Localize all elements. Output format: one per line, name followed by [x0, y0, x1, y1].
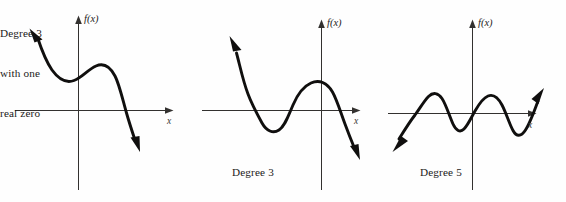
graph-panel-degree-3-one-zero: f(x) x Degree 3 with one real zero [0, 0, 190, 202]
polynomial-curve [30, 29, 141, 153]
caption-line-1: Degree 5 [420, 166, 465, 179]
caption-line-3: real zero [0, 107, 42, 120]
panel-caption: Degree 5 with five real zeros [420, 139, 465, 202]
y-axis [469, 20, 476, 191]
polynomial-curve [393, 88, 545, 152]
y-axis-label: f(x) [478, 17, 493, 29]
caption-line-1: Degree 3 [232, 166, 279, 179]
caption-line-1: Degree 3 [0, 27, 42, 40]
polynomial-graphs-figure: f(x) x Degree 3 with one real zero [0, 0, 566, 202]
x-axis-label: x [527, 120, 533, 130]
panel-caption: Degree 3 with three real zeros [232, 139, 279, 202]
panel-caption: Degree 3 with one real zero [0, 0, 42, 147]
y-axis-label: f(x) [327, 17, 342, 29]
x-axis [202, 107, 361, 114]
panel-3-svg: f(x) x [376, 0, 566, 202]
x-axis-label: x [353, 116, 359, 126]
graph-panel-degree-3-three-zeros: f(x) x Degree 3 with three real zeros [188, 0, 378, 202]
x-axis [388, 110, 537, 117]
graph-panel-degree-5-five-zeros: f(x) x Degree 5 with five real zeros [376, 0, 566, 202]
y-axis-label: f(x) [84, 13, 99, 25]
caption-line-2: with one [0, 67, 42, 80]
y-axis [318, 20, 325, 191]
x-axis-label: x [166, 116, 172, 126]
y-axis [75, 16, 82, 191]
panel-2-svg: f(x) x [188, 0, 378, 202]
